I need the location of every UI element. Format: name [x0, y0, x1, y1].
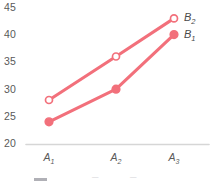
series-label-b1-sub: 1: [191, 34, 195, 43]
series-label-b2-sub: 2: [191, 17, 195, 26]
legend-glyph-3: ─: [130, 173, 136, 181]
x-tick-a3-sub: 3: [176, 158, 180, 165]
y-tick-label-45: 45: [4, 2, 24, 13]
x-tick-a2-sub: 2: [118, 158, 122, 165]
series-label-b1: B1: [184, 28, 196, 45]
y-tick-label-20: 20: [4, 138, 24, 149]
x-tick-label-a1: A1: [29, 151, 69, 168]
x-tick-a1-base: A: [44, 151, 51, 163]
x-tick-label-a3: A3: [154, 151, 194, 168]
x-tick-a2-base: A: [111, 151, 118, 163]
line-chart: 45 40 35 30 25 20 A1 A2 A3 B2 B1 ─ ─: [0, 0, 213, 181]
series-b1-point-a3: [170, 31, 178, 39]
series-b2-line: [49, 18, 174, 100]
series-b1-line: [49, 35, 174, 122]
legend-clipped: ─ ─: [0, 173, 213, 181]
legend-swatch-1: [34, 178, 47, 181]
x-tick-label-a2: A2: [96, 151, 136, 168]
series-b1-point-a2: [112, 85, 120, 93]
y-tick-label-25: 25: [4, 111, 24, 122]
series-b1-point-a1: [45, 118, 53, 126]
y-tick-label-40: 40: [4, 29, 24, 40]
series-b2-point-a1: [46, 97, 53, 104]
y-tick-label-30: 30: [4, 84, 24, 95]
legend-glyph-2: ─: [92, 173, 98, 181]
series-label-b2: B2: [184, 11, 196, 28]
series-b2-point-a3: [171, 15, 178, 22]
series-b2-point-a2: [113, 53, 120, 60]
y-tick-label-35: 35: [4, 56, 24, 67]
x-tick-a1-sub: 1: [51, 158, 55, 165]
x-tick-a3-base: A: [169, 151, 176, 163]
